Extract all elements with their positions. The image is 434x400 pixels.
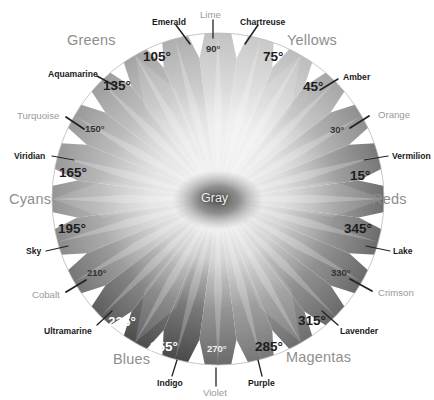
hue-name-amber: Amber	[343, 73, 370, 82]
degree-label-d330: 330°	[331, 268, 351, 278]
family-label-blues: Blues	[113, 352, 150, 367]
hue-name-indigo: Indigo	[157, 379, 183, 388]
hue-name-lime: Lime	[200, 10, 221, 20]
degree-label-d90: 90°	[206, 44, 220, 54]
hue-wheel-figure: GreensYellowsCyansRedsBluesMagentas90°75…	[0, 0, 434, 400]
degree-label-d135: 135°	[103, 79, 131, 93]
degree-label-d75: 75°	[263, 50, 283, 64]
hue-name-vermilion: Vermilion	[392, 152, 431, 161]
hue-name-lavender: Lavender	[340, 327, 378, 336]
hue-name-viridian: Viridian	[14, 152, 45, 161]
degree-label-d255: 255°	[150, 340, 178, 354]
hue-name-emerald: Emerald	[152, 18, 186, 27]
hue-name-sky: Sky	[26, 247, 41, 256]
hue-name-chartreuse: Chartreuse	[240, 18, 285, 27]
family-label-greens: Greens	[67, 33, 116, 48]
leader-indigo	[172, 360, 177, 376]
hue-name-purple: Purple	[248, 379, 275, 388]
degree-label-d210: 210°	[87, 268, 107, 278]
degree-label-d30: 30°	[330, 125, 344, 135]
degree-label-d315: 315°	[298, 314, 326, 328]
degree-label-d285: 285°	[255, 340, 283, 354]
degree-label-d45: 45°	[303, 80, 323, 94]
degree-label-d165: 165°	[59, 166, 87, 180]
family-label-reds: Reds	[372, 192, 407, 207]
degree-label-d345: 345°	[344, 222, 372, 236]
hue-name-aquamarine: Aquamarine	[48, 70, 98, 79]
family-label-yellows: Yellows	[287, 33, 337, 48]
family-label-cyans: Cyans	[9, 192, 51, 207]
hue-name-turquoise: Turquoise	[17, 111, 59, 121]
hue-name-cobalt: Cobalt	[32, 290, 60, 300]
hue-name-lake: Lake	[393, 247, 413, 256]
degree-label-d270: 270°	[207, 344, 227, 354]
center-gray-label: Gray	[201, 192, 228, 205]
family-label-magentas: Magentas	[286, 350, 351, 365]
hue-name-violet: Violet	[203, 388, 227, 398]
degree-label-d150: 150°	[85, 124, 105, 134]
hue-name-orange: Orange	[378, 110, 410, 120]
degree-label-d225: 225°	[108, 315, 136, 329]
degree-label-d15: 15°	[350, 169, 370, 183]
hue-name-ultramarine: Ultramarine	[44, 327, 92, 336]
leader-purple	[258, 360, 262, 376]
degree-label-d105: 105°	[143, 50, 171, 64]
degree-label-d195: 195°	[58, 222, 86, 236]
hue-name-crimson: Crimson	[378, 288, 414, 298]
